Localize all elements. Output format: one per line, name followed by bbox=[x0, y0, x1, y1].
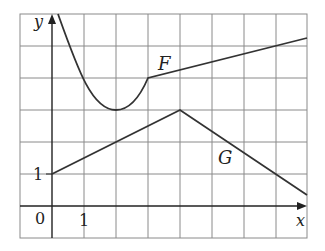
curve-G-label: G bbox=[218, 147, 232, 168]
curve-F-label: F bbox=[157, 53, 172, 74]
y-tick-label-1: 1 bbox=[33, 165, 43, 184]
y-axis-label: y bbox=[33, 12, 44, 31]
x-axis-label: x bbox=[296, 211, 305, 230]
origin-label: 0 bbox=[35, 209, 45, 228]
graph: y x 0 1 1 F G bbox=[0, 0, 325, 251]
x-tick-label-1: 1 bbox=[79, 211, 89, 230]
grid bbox=[20, 14, 307, 238]
y-axis-arrow-icon bbox=[48, 14, 56, 24]
curve-F bbox=[58, 14, 307, 110]
x-axis-arrow-icon bbox=[297, 202, 307, 210]
axes bbox=[20, 14, 307, 238]
